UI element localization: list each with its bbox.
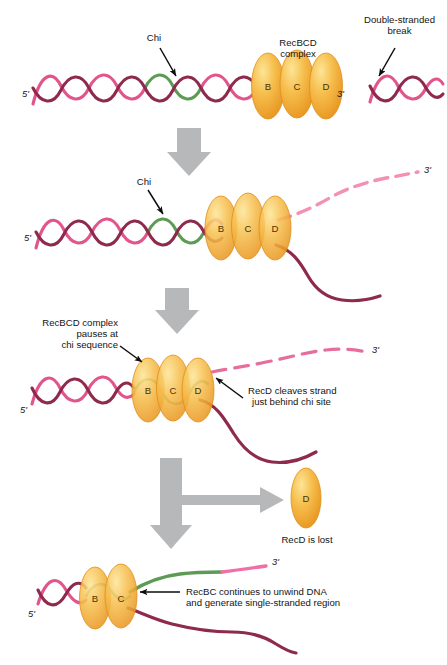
chi-label-panel1: Chi [122, 32, 186, 43]
chi-pointer-arrow-panel2 [148, 190, 163, 214]
five-prime-label-panel3: 5' [20, 404, 27, 415]
subunit-label-d-panel3: D [186, 385, 210, 396]
step-arrow-1 [167, 128, 211, 176]
recbcd-complex-label-line2: complex [262, 48, 334, 59]
ssdna-3prime-dashed-panel2 [278, 172, 418, 220]
continue-label-line2: and generate single-stranded region [186, 597, 340, 608]
figure-canvas: Chi RecBCD complex Double-stranded break… [0, 0, 447, 665]
pause-label-line2: pauses at [10, 328, 118, 339]
continue-label-line1: RecBC continues to unwind DNA [186, 586, 327, 597]
break-pointer-arrow [379, 48, 395, 76]
ssdna-maroon-panel3 [200, 400, 316, 463]
recd-lost-label: RecD is lost [262, 534, 352, 545]
three-prime-label-panel1: 3' [337, 88, 344, 99]
three-prime-label-panel2: 3' [424, 164, 431, 175]
step-arrow-2 [155, 288, 199, 334]
chi-label-panel2: Chi [112, 176, 176, 187]
ssdna-maroon-panel4 [128, 608, 296, 653]
five-prime-label-panel4: 5' [28, 608, 35, 619]
pause-label-line1: RecBCD complex [10, 317, 118, 328]
cleave-label-line1: RecD cleaves strand [248, 385, 337, 396]
subunit-label-d-released: D [294, 493, 318, 504]
subunit-label-b-panel1: B [256, 81, 280, 92]
subunit-label-b-panel3: B [136, 385, 160, 396]
ssdna-3prime-dashed-panel3 [212, 349, 368, 372]
subunit-label-c-panel2: C [236, 223, 260, 234]
break-label-line1: Double-stranded [352, 14, 447, 25]
subunit-label-b-panel4: B [83, 593, 107, 604]
panel-2-group [36, 172, 418, 301]
dna-fragment-right [370, 76, 443, 102]
five-prime-label-panel1: 5' [22, 88, 29, 99]
break-label-line2: break [352, 25, 447, 36]
three-prime-label-panel4: 3' [272, 556, 279, 567]
subunit-label-d-panel2: D [263, 223, 287, 234]
ssdna-3prime-pink-panel4 [222, 566, 266, 572]
dna-duplex-panel2 [36, 219, 222, 248]
panel-4-group [38, 564, 296, 653]
pause-pointer-arrow [120, 346, 142, 362]
subunit-label-b-panel2: B [209, 223, 233, 234]
subunit-label-d-panel1: D [314, 81, 338, 92]
subunit-label-c-panel4: C [109, 593, 133, 604]
cleave-pointer-arrow [216, 378, 243, 398]
pause-label-line3: chi sequence [10, 339, 118, 350]
five-prime-label-panel2: 5' [24, 232, 31, 243]
subunit-label-c-panel3: C [161, 385, 185, 396]
three-prime-label-panel3: 3' [372, 344, 379, 355]
chi-pointer-arrow [160, 48, 176, 76]
subunit-label-c-panel1: C [285, 81, 309, 92]
panel-1-group [33, 48, 443, 119]
ssdna-maroon-panel2 [276, 245, 380, 301]
recbcd-complex-label-line1: RecBCD [262, 37, 334, 48]
cleave-label-line2: just behind chi site [252, 396, 331, 407]
